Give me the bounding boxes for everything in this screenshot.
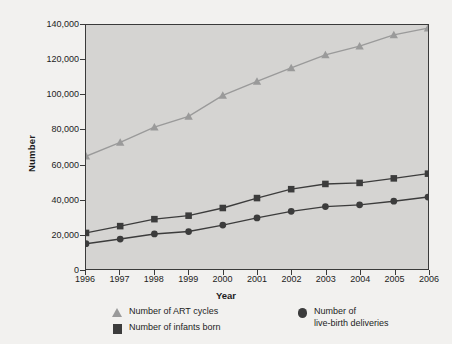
legend-label-live-birth-line2: live-birth deliveries bbox=[314, 318, 389, 328]
data-point-circle bbox=[390, 198, 397, 205]
y-tick-label: 40,000 bbox=[23, 195, 79, 205]
x-axis-tick bbox=[360, 270, 361, 275]
legend-label-art-cycles: Number of ART cycles bbox=[129, 306, 218, 318]
x-axis-tick bbox=[326, 270, 327, 275]
x-axis-tick bbox=[85, 270, 86, 275]
y-tick-label: 20,000 bbox=[23, 230, 79, 240]
data-point-circle bbox=[219, 222, 226, 229]
data-point-square bbox=[425, 170, 428, 177]
data-point-circle bbox=[151, 231, 158, 238]
data-point-triangle bbox=[219, 91, 227, 98]
data-point-circle bbox=[185, 228, 192, 235]
x-axis-tick bbox=[188, 270, 189, 275]
series-circle bbox=[86, 194, 428, 247]
x-axis-tick bbox=[291, 270, 292, 275]
data-point-square bbox=[220, 205, 227, 212]
y-tick-label: 60,000 bbox=[23, 160, 79, 170]
y-tick-label: 140,000 bbox=[23, 19, 79, 29]
data-point-square bbox=[391, 175, 398, 182]
legend-label-infants-born: Number of infants born bbox=[129, 322, 221, 334]
legend-item-live-birth-deliveries: Number of live-birth deliveries bbox=[297, 306, 389, 329]
y-tick-label: 80,000 bbox=[23, 124, 79, 134]
data-point-circle bbox=[425, 194, 428, 201]
data-point-square bbox=[288, 186, 295, 193]
x-axis-title: Year bbox=[0, 290, 452, 301]
x-axis-tick bbox=[429, 270, 430, 275]
y-axis-title: Number bbox=[26, 109, 37, 199]
x-axis-tick bbox=[223, 270, 224, 275]
legend-column-left: Number of ART cycles Number of infants b… bbox=[112, 306, 221, 338]
chart-figure: Number Year 020,00040,00060,00080,000100… bbox=[0, 0, 452, 344]
circle-marker-icon bbox=[297, 307, 308, 318]
data-point-circle bbox=[288, 208, 295, 215]
triangle-marker-icon bbox=[112, 307, 123, 318]
legend-column-right: Number of live-birth deliveries bbox=[297, 306, 389, 333]
x-tick-label: 2006 bbox=[409, 274, 449, 284]
series-triangle bbox=[86, 25, 428, 160]
data-point-square bbox=[117, 223, 124, 230]
data-point-circle bbox=[117, 236, 124, 243]
data-point-triangle bbox=[116, 138, 124, 145]
data-point-circle bbox=[86, 240, 89, 247]
series-line bbox=[86, 28, 428, 156]
data-point-square bbox=[151, 216, 158, 223]
plot-svg bbox=[86, 25, 428, 269]
y-tick-label: 100,000 bbox=[23, 89, 79, 99]
x-axis-tick bbox=[395, 270, 396, 275]
data-point-square bbox=[86, 230, 89, 237]
data-point-circle bbox=[322, 203, 329, 210]
data-point-circle bbox=[356, 201, 363, 208]
legend-item-infants-born: Number of infants born bbox=[112, 322, 221, 334]
x-axis-tick bbox=[119, 270, 120, 275]
data-point-square bbox=[356, 180, 363, 187]
data-point-square bbox=[322, 181, 329, 188]
data-point-square bbox=[185, 212, 192, 219]
y-tick-label: 120,000 bbox=[23, 54, 79, 64]
plot-area bbox=[85, 24, 429, 270]
data-point-circle bbox=[254, 215, 261, 222]
x-axis-tick bbox=[257, 270, 258, 275]
square-marker-icon bbox=[112, 323, 123, 334]
x-axis-tick bbox=[154, 270, 155, 275]
data-point-square bbox=[254, 195, 261, 202]
legend-label-live-birth-line1: Number of bbox=[314, 306, 356, 316]
legend-item-art-cycles: Number of ART cycles bbox=[112, 306, 221, 318]
data-point-triangle bbox=[184, 112, 192, 119]
